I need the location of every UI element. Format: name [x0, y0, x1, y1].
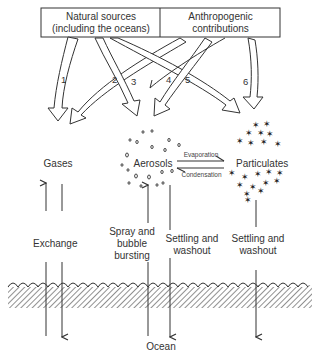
spray-line2: bubble — [108, 238, 156, 250]
pathway-number-3: 3 — [131, 76, 136, 87]
natural-sources-line1: Natural sources — [45, 11, 157, 23]
evaporation-label: Evaporation — [180, 151, 222, 159]
svg-text:✶: ✶ — [247, 138, 255, 148]
arrow-6 — [243, 38, 263, 109]
spray-line3: bursting — [108, 250, 156, 262]
ocean-surface — [8, 283, 312, 308]
particulates-label: Particulates — [236, 158, 286, 170]
svg-text:✶: ✶ — [236, 136, 244, 146]
svg-text:✶: ✶ — [273, 176, 281, 186]
anthropogenic-line2: contributions — [163, 23, 278, 35]
settling2-line2: washout — [230, 245, 286, 257]
pathway-number-4: 4 — [166, 74, 171, 85]
svg-text:✶: ✶ — [228, 168, 236, 178]
diagram-canvas: ✶✶ ✶✶✶ ✶✶✶✶ ✶✶✶✶✶ ✶✶✶✶ ✶✶✶ — [0, 0, 321, 359]
settling2-line1: Settling and — [230, 233, 286, 245]
pathway-number-2: 2 — [112, 74, 117, 85]
pathway-number-1: 1 — [61, 74, 66, 85]
aerosols-label: Aerosols — [133, 158, 173, 170]
settling-washout-aerosols-label: Settling and washout — [164, 233, 220, 257]
source-arrows — [48, 37, 263, 124]
svg-text:✶: ✶ — [260, 137, 268, 147]
pathway-number-6: 6 — [243, 76, 248, 87]
svg-text:✶: ✶ — [244, 195, 252, 205]
spray-bubble-label: Spray and bubble bursting — [108, 226, 156, 262]
condensation-label: Condensation — [179, 171, 224, 179]
settling1-line2: washout — [164, 245, 220, 257]
settling1-line1: Settling and — [164, 233, 220, 245]
anthropogenic-label: Anthropogenic contributions — [163, 11, 278, 35]
anthropogenic-line1: Anthropogenic — [163, 11, 278, 23]
ocean-label: Ocean — [146, 341, 176, 353]
natural-sources-line2: (including the oceans) — [45, 23, 157, 35]
pathway-number-5: 5 — [185, 74, 190, 85]
svg-text:✶: ✶ — [274, 139, 282, 149]
settling-washout-particulates-label: Settling and washout — [230, 233, 286, 257]
spray-line1: Spray and — [108, 226, 156, 238]
svg-text:✶: ✶ — [245, 128, 253, 138]
svg-text:✶: ✶ — [254, 169, 262, 179]
natural-sources-label: Natural sources (including the oceans) — [45, 11, 157, 35]
svg-text:✶: ✶ — [257, 186, 265, 196]
gases-label: Gases — [40, 158, 76, 170]
exchange-label: Exchange — [33, 238, 77, 250]
